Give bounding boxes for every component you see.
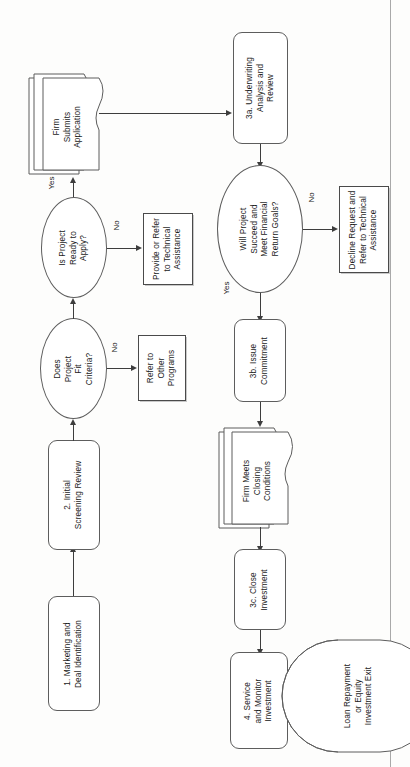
connector-doc1-n3a xyxy=(99,113,227,114)
node-label: 1. Marketing and Deal Identification xyxy=(63,620,84,688)
connector-n3b-doc2 xyxy=(260,402,261,422)
connector-n2-d1 xyxy=(73,424,74,441)
node-label: Refer to Other Programs xyxy=(146,350,178,387)
edge-label-financial-goals-no: No xyxy=(303,190,319,204)
arrowhead-doc1-n3a xyxy=(226,110,232,116)
arrowhead-d1-r1 xyxy=(131,365,137,371)
node-refer-to-other-programs[interactable]: Refer to Other Programs xyxy=(138,335,186,401)
connector-d2-r2 xyxy=(107,248,137,249)
node-label: 3b. Issue Commitment xyxy=(249,337,270,385)
arrowhead-d2-doc1 xyxy=(70,177,76,183)
node-label: 3a. Underwriting Analysis and Review xyxy=(245,57,277,119)
edge-label-financial-goals-yes: Yes xyxy=(217,281,235,295)
arrowhead-d1-d2 xyxy=(70,298,76,304)
arrowhead-n2-d1 xyxy=(70,419,76,425)
node-does-project-fit-criteria[interactable]: Does Project Fit Criteria? xyxy=(40,318,107,419)
node-is-project-ready-to-apply[interactable]: Is Project Ready to Apply? xyxy=(41,197,107,298)
node-underwriting-analysis-review[interactable]: 3a. Underwriting Analysis and Review xyxy=(233,32,288,144)
arrowhead-d2-r2 xyxy=(136,245,142,251)
connector-d2-doc1 xyxy=(73,182,74,197)
connector-d1-r1 xyxy=(107,368,132,369)
node-label: 3c. Close Investment xyxy=(249,569,270,611)
node-label: Will Project Succeed and Meet Financial … xyxy=(239,201,282,256)
node-will-project-succeed[interactable]: Will Project Succeed and Meet Financial … xyxy=(217,165,303,293)
node-label: Firm Meets Closing Conditions xyxy=(242,460,274,502)
arrowhead-d3-r3 xyxy=(332,226,338,232)
edge-label-ready-to-apply-yes: Yes xyxy=(42,176,60,190)
connector-n1-n2 xyxy=(73,551,74,596)
node-label: Provide or Refer to Technical Assistance xyxy=(152,218,184,280)
node-service-and-monitor-investment[interactable]: 4. Service and Monitor Investment xyxy=(230,652,288,749)
connector-d3-n3b xyxy=(260,293,261,317)
node-label: Decline Request and Refer to Technical A… xyxy=(348,190,380,269)
edge-label-fit-criteria-no: No xyxy=(106,340,122,354)
node-initial-screening-review[interactable]: 2. Initial Screening Review xyxy=(48,440,100,550)
connector-d3-r3 xyxy=(303,229,333,230)
node-loan-repayment-or-equity-exit[interactable]: Loan Repayment or Equity Investment Exit xyxy=(324,639,394,753)
connector-n3c-n4 xyxy=(260,630,261,650)
node-issue-commitment[interactable]: 3b. Issue Commitment xyxy=(234,319,286,402)
node-firm-submits-application[interactable]: Firm Submits Application xyxy=(33,70,107,176)
node-label: Firm Submits Application xyxy=(52,106,84,148)
node-decline-request-refer-technical-assistance[interactable]: Decline Request and Refer to Technical A… xyxy=(339,186,389,273)
edge-label-ready-to-apply-no: No xyxy=(108,218,124,232)
node-marketing-deal-identification[interactable]: 1. Marketing and Deal Identification xyxy=(48,596,100,711)
node-label: Does Project Fit Criteria? xyxy=(52,352,95,384)
node-firm-meets-closing-conditions[interactable]: Firm Meets Closing Conditions xyxy=(222,424,298,530)
connector-doc2-n3c xyxy=(260,527,261,547)
node-label: Loan Repayment or Equity Investment Exit xyxy=(343,664,375,728)
node-provide-or-refer-technical-assistance[interactable]: Provide or Refer to Technical Assistance xyxy=(143,213,193,285)
node-close-investment[interactable]: 3c. Close Investment xyxy=(234,549,286,630)
node-label: 4. Service and Monitor Investment xyxy=(243,678,275,723)
flowchart-page: 1. Marketing and Deal Identification 2. … xyxy=(0,0,410,767)
node-label: Is Project Ready to Apply? xyxy=(58,230,90,266)
connector-d1-d2 xyxy=(73,303,74,319)
node-label: 2. Initial Screening Review xyxy=(63,461,84,529)
connector-n3a-d3 xyxy=(260,144,261,163)
